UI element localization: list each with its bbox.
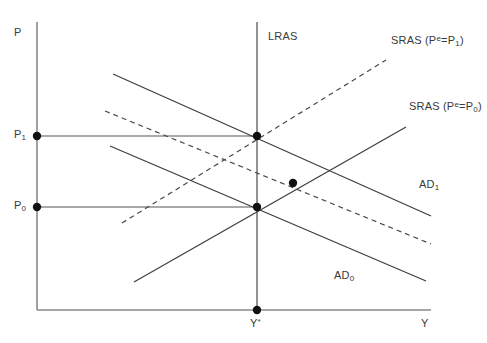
p0-text-main: P bbox=[14, 199, 22, 211]
ad0-text-sub: 0 bbox=[350, 274, 355, 283]
curve-label-sras-pe-p0: SRAS (Pe=P0) bbox=[409, 101, 482, 112]
ystar-text-sup: * bbox=[258, 317, 261, 326]
ad0-text-main: AD bbox=[334, 269, 350, 281]
curve-sras-pe-p1 bbox=[122, 60, 386, 223]
sras1-text-mid: =P bbox=[441, 34, 455, 46]
dot-axis-p0 bbox=[33, 203, 41, 211]
price-reference-lines bbox=[37, 136, 258, 207]
dot-short-run-equilibrium bbox=[289, 179, 297, 187]
price-tick-label-p0: P0 bbox=[14, 200, 26, 211]
output-tick-label-ystar: Y* bbox=[250, 318, 261, 329]
curve-label-lras: LRAS bbox=[268, 31, 298, 42]
ad1-text-sub: 1 bbox=[435, 183, 440, 192]
diagram-canvas bbox=[0, 0, 487, 343]
curve-sras-pe-p0 bbox=[134, 127, 406, 282]
dot-axis-ystar bbox=[253, 306, 261, 314]
sras0-text-main: SRAS (P bbox=[409, 100, 454, 112]
curve-ad-intermediate bbox=[105, 111, 431, 244]
curve-ad0 bbox=[110, 146, 426, 281]
ystar-text-main: Y bbox=[250, 317, 258, 329]
axes-group bbox=[37, 22, 431, 310]
dot-equilibrium-p1 bbox=[253, 132, 261, 140]
sras0-text-end: ) bbox=[478, 100, 482, 112]
sras1-text-sup: e bbox=[436, 34, 441, 43]
dot-equilibrium-p0 bbox=[253, 203, 261, 211]
price-tick-label-p1: P1 bbox=[14, 129, 26, 140]
ad-as-diagram: P Y LRAS SRAS (Pe=P1) SRAS (Pe=P0) AD1 A… bbox=[0, 0, 487, 343]
curve-label-ad1: AD1 bbox=[419, 179, 439, 190]
sras1-text-end: ) bbox=[460, 34, 464, 46]
p1-text-sub: 1 bbox=[22, 133, 27, 142]
ad1-text-main: AD bbox=[419, 178, 435, 190]
sras0-text-mid: =P bbox=[459, 100, 473, 112]
p0-text-sub: 0 bbox=[22, 204, 27, 213]
sras1-text-sub: 1 bbox=[455, 39, 460, 48]
y-axis-label: P bbox=[14, 27, 22, 38]
curve-label-ad0: AD0 bbox=[334, 270, 354, 281]
curve-label-sras-pe-p1: SRAS (Pe=P1) bbox=[391, 35, 464, 46]
curve-ad1 bbox=[113, 74, 431, 216]
x-axis-label: Y bbox=[421, 318, 429, 329]
dot-axis-p1 bbox=[33, 132, 41, 140]
sras1-text-main: SRAS (P bbox=[391, 34, 436, 46]
p1-text-main: P bbox=[14, 128, 22, 140]
sras0-text-sub: 0 bbox=[473, 105, 478, 114]
sras0-text-sup: e bbox=[454, 100, 459, 109]
